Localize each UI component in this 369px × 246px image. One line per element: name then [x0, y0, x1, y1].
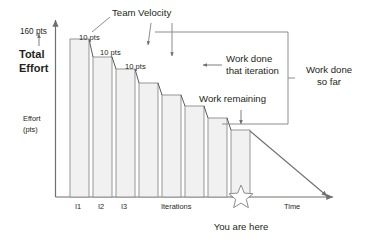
y-axis-top-value: 160 pts	[20, 27, 47, 36]
work-done-iteration-line2: that iteration	[226, 66, 279, 77]
work-done-so-far-line2: so far	[296, 77, 362, 88]
x-tick-i2: I2	[98, 203, 104, 211]
bar-i2	[93, 57, 112, 197]
total-effort-label-line2: Effort	[19, 62, 48, 74]
bar-i1	[70, 39, 89, 197]
bar-i7	[208, 118, 227, 197]
bar-i5	[162, 95, 181, 197]
x-tick-i1: I1	[75, 203, 81, 211]
x-group-label: Iterations	[161, 203, 191, 211]
bar-i4	[139, 83, 158, 197]
y-axis-label-line2: (pts)	[23, 126, 38, 134]
work-done-so-far-line1: Work done	[296, 65, 362, 76]
step-label-2: 10 pts	[100, 49, 121, 58]
bars-group	[70, 39, 250, 197]
team-velocity-label: Team Velocity	[112, 8, 171, 19]
tv-arrow-2	[148, 23, 151, 45]
bar-i6	[185, 106, 204, 197]
you-are-here-label: You are here	[191, 222, 291, 233]
projection-line	[250, 131, 327, 196]
step-label-3: 10 pts	[125, 63, 146, 72]
total-effort-label-line1: Total	[19, 48, 44, 60]
bar-i3	[116, 69, 135, 197]
burndown-diagram: 160 pts Total Effort Effort (pts) Team V…	[0, 0, 369, 246]
x-axis-label: Time	[284, 203, 300, 211]
step-label-1: 10 pts	[79, 34, 100, 43]
x-tick-i3: I3	[121, 203, 127, 211]
work-done-iteration-line1: Work done	[226, 54, 272, 65]
work-remaining-label: Work remaining	[199, 94, 266, 105]
y-axis-label-line1: Effort	[23, 115, 41, 123]
